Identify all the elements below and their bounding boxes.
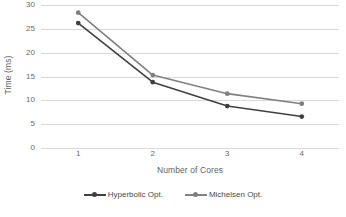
x-axis-title: Number of Cores [41, 165, 339, 175]
data-point [76, 10, 81, 15]
data-point [299, 101, 304, 106]
y-axis-title-label: Time (ms) [3, 56, 13, 95]
y-tick-label: 20 [26, 49, 35, 57]
legend-item[interactable]: Michelsen Opt. [185, 190, 262, 199]
y-tick-label: 15 [26, 73, 35, 81]
x-tick-label: 1 [76, 150, 80, 158]
y-axis-title: Time (ms) [0, 0, 16, 150]
y-tick-label: 25 [26, 25, 35, 33]
series-line [78, 23, 302, 116]
y-tick-label: 5 [31, 120, 35, 128]
y-tick-label: 30 [26, 1, 35, 9]
data-point [76, 21, 81, 26]
data-point [299, 114, 304, 119]
plot-area [41, 5, 339, 148]
legend-label: Michelsen Opt. [209, 190, 262, 199]
data-point [150, 73, 155, 78]
data-point [150, 80, 155, 85]
y-tick-label: 0 [31, 144, 35, 152]
gridline [41, 148, 339, 149]
data-point [225, 91, 230, 96]
series-line [78, 13, 302, 104]
x-tick-label: 2 [151, 150, 155, 158]
series-layer [41, 5, 339, 148]
data-point [225, 104, 230, 109]
legend-label: Hyperbolic Opt. [108, 190, 163, 199]
y-axis-tick-labels: 051015202530 [16, 5, 38, 148]
series-2 [76, 10, 304, 106]
legend-item[interactable]: Hyperbolic Opt. [84, 190, 163, 199]
legend-marker-icon [185, 190, 207, 199]
x-tick-label: 4 [300, 150, 304, 158]
legend-marker-icon [84, 190, 106, 199]
series-1 [76, 21, 304, 119]
x-tick-label: 3 [225, 150, 229, 158]
line-chart: Time (ms) 051015202530 1234 Number of Co… [0, 0, 346, 217]
x-axis-tick-labels: 1234 [41, 150, 339, 164]
chart-legend: Hyperbolic Opt.Michelsen Opt. [0, 190, 346, 199]
y-tick-label: 10 [26, 96, 35, 104]
